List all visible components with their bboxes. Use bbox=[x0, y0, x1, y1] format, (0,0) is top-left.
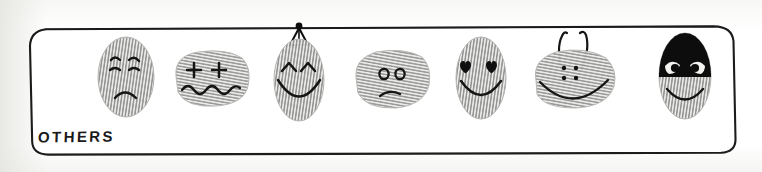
face-heart-eyes bbox=[452, 36, 510, 120]
panel-label: OTHERS bbox=[38, 128, 116, 146]
page-root: OTHERS bbox=[0, 0, 762, 172]
scan-edge-shadow bbox=[0, 0, 46, 172]
face-antenna-bug bbox=[528, 28, 622, 112]
face-dizzy-plus-eyes bbox=[168, 46, 254, 110]
face-masked-bandit bbox=[653, 32, 717, 120]
face-unamused bbox=[350, 47, 434, 111]
face-happy-with-bow bbox=[268, 18, 330, 122]
face-worried-sad bbox=[95, 36, 157, 118]
